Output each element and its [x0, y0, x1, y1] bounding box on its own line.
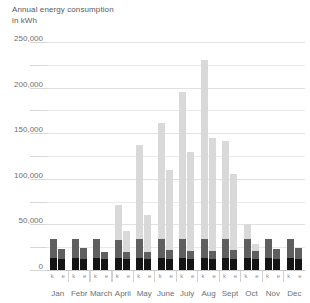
- bar-segment-light: [244, 224, 251, 239]
- plot-area: 050,000100,000150,000200,000250,000: [47, 42, 305, 270]
- month-group: [112, 42, 134, 270]
- bar[interactable]: [252, 244, 259, 270]
- x-axis-sublabel: k: [221, 271, 228, 282]
- x-axis-sublabel: e: [146, 271, 153, 282]
- x-axis-month: keFebr: [68, 271, 89, 303]
- x-axis-sublabels: ke: [262, 271, 283, 282]
- bar[interactable]: [222, 141, 229, 270]
- month-group: [47, 42, 69, 270]
- bar-segment-dark: [230, 259, 237, 270]
- bar-segment-dark: [273, 259, 280, 270]
- bar[interactable]: [230, 174, 237, 270]
- x-axis-month: keOct: [241, 271, 262, 303]
- x-axis-month: keDec: [284, 271, 305, 303]
- x-axis-sublabels: ke: [112, 271, 133, 282]
- bar-segment-dark: [136, 258, 143, 270]
- bar[interactable]: [144, 215, 151, 270]
- y-axis-tick-label: 150,000: [14, 125, 43, 134]
- bar-segment-dark: [58, 259, 65, 270]
- y-axis-tick-label: 200,000: [14, 80, 43, 89]
- bar-segment-dark: [187, 259, 194, 270]
- bar-segment-mid: [244, 239, 251, 258]
- bar[interactable]: [58, 249, 65, 270]
- bar[interactable]: [93, 239, 100, 270]
- x-axis-sublabel: k: [264, 271, 271, 282]
- x-axis-sublabel: k: [200, 271, 207, 282]
- chart-title-subtitle: in kWh: [12, 15, 114, 26]
- x-axis-separator: [240, 271, 241, 282]
- bar[interactable]: [166, 170, 173, 270]
- month-group: [176, 42, 198, 270]
- bar-segment-dark: [252, 259, 259, 270]
- bar[interactable]: [50, 239, 57, 270]
- x-axis-sublabel: e: [189, 271, 196, 282]
- x-axis-month: keJuly: [176, 271, 197, 303]
- bar[interactable]: [136, 145, 143, 270]
- chart-title: Annual energy consumption in kWh: [12, 4, 114, 26]
- bar-segment-dark: [144, 259, 151, 270]
- x-axis-month-label: Jan: [47, 282, 68, 301]
- bar-segment-dark: [50, 258, 57, 270]
- x-axis-month-label: May: [134, 282, 155, 301]
- bar-segment-mid: [123, 252, 130, 259]
- x-axis-month: keAug: [198, 271, 219, 303]
- bar-segment-dark: [123, 259, 130, 270]
- x-axis-separator: [112, 271, 113, 282]
- bar[interactable]: [179, 92, 186, 270]
- bar-segment-dark: [72, 258, 79, 270]
- x-axis-sublabel: k: [242, 271, 249, 282]
- x-axis-month-label: Sept: [219, 282, 240, 301]
- bar-segment-dark: [80, 259, 87, 270]
- x-axis-month-label: March: [90, 282, 112, 301]
- bar-segment-light: [179, 92, 186, 239]
- x-axis-sublabel: e: [253, 271, 260, 282]
- bar[interactable]: [115, 205, 122, 270]
- bar[interactable]: [295, 248, 302, 270]
- y-axis-tick-label: 50,000: [19, 216, 43, 225]
- bar-segment-mid: [72, 239, 79, 258]
- x-axis-sublabels: ke: [219, 271, 240, 282]
- x-axis-separator: [283, 271, 284, 282]
- bar-segment-dark: [115, 258, 122, 270]
- bar[interactable]: [101, 252, 108, 270]
- x-axis-sublabel: e: [103, 271, 110, 282]
- bar[interactable]: [158, 123, 165, 270]
- bar[interactable]: [123, 231, 130, 270]
- bar[interactable]: [72, 239, 79, 270]
- bar-segment-light: [166, 170, 173, 250]
- y-axis-tick-label: 0: [39, 262, 43, 271]
- bar[interactable]: [201, 60, 208, 270]
- bar-segment-mid: [273, 249, 280, 259]
- bar-segment-mid: [230, 250, 237, 259]
- bar[interactable]: [287, 239, 294, 270]
- x-axis-sublabel: e: [296, 271, 303, 282]
- x-axis-separator: [219, 271, 220, 282]
- bar-segment-dark: [287, 258, 294, 270]
- bar-segment-mid: [222, 239, 229, 258]
- x-axis-separator: [68, 271, 69, 282]
- bar[interactable]: [273, 249, 280, 270]
- bar-segment-mid: [179, 239, 186, 258]
- bar[interactable]: [244, 224, 251, 270]
- x-axis-sublabel: k: [92, 271, 99, 282]
- bar-segment-mid: [187, 251, 194, 259]
- bar-segment-mid: [287, 239, 294, 258]
- x-axis-sublabel: k: [285, 271, 292, 282]
- bar-segment-light: [222, 141, 229, 239]
- bar-segment-light: [201, 60, 208, 239]
- energy-consumption-chart: Annual energy consumption in kWh 050,000…: [0, 0, 310, 303]
- bar-segment-mid: [136, 239, 143, 258]
- bar-segment-dark: [101, 259, 108, 270]
- x-axis-sublabel: e: [125, 271, 132, 282]
- month-group: [262, 42, 284, 270]
- bar-segment-light: [136, 145, 143, 239]
- x-axis-month-label: June: [155, 282, 176, 301]
- bar[interactable]: [80, 248, 87, 270]
- bar[interactable]: [209, 138, 216, 270]
- bar[interactable]: [265, 239, 272, 270]
- bar-segment-mid: [80, 248, 87, 259]
- month-group: [90, 42, 112, 270]
- bar[interactable]: [187, 152, 194, 270]
- bar-segment-mid: [166, 250, 173, 259]
- bar-segment-dark: [158, 258, 165, 270]
